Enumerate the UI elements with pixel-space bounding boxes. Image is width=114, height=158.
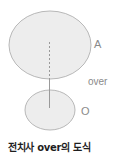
landmark-label: A [94, 39, 101, 50]
over-schema-diagram [0, 0, 114, 135]
trajector-label: O [81, 106, 90, 117]
landmark-ellipse-a [9, 11, 91, 79]
relation-label: over [88, 77, 107, 87]
figure-caption: 전치사 over의 도식 [8, 139, 90, 154]
